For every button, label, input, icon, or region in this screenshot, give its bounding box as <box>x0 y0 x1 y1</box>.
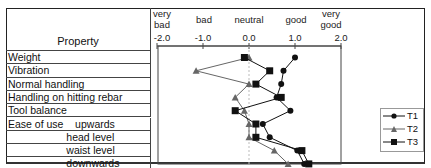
plot-area <box>0 0 431 168</box>
legend-item-t1: T1 <box>381 109 423 122</box>
circle-marker-icon <box>383 112 407 120</box>
legend: T1 T2 T3 <box>380 108 424 152</box>
legend-item-t3: T3 <box>381 135 423 148</box>
triangle-marker-icon <box>383 125 407 133</box>
legend-item-t2: T2 <box>381 122 423 135</box>
square-marker-icon <box>383 138 407 146</box>
